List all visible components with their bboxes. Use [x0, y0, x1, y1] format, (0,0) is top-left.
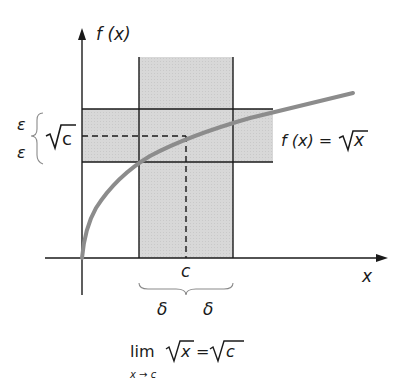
y-axis-arrow-icon: [78, 28, 86, 40]
x-axis-label: x: [361, 266, 373, 286]
epsilon-label-bottom: ε: [17, 143, 26, 162]
epsilon-delta-diagram: f (x) x c δ δ ε ε c f (x) = x lim x → c …: [0, 0, 394, 392]
limit-lim: lim: [130, 342, 154, 361]
y-axis-label: f (x): [96, 24, 131, 44]
function-radicand: x: [353, 130, 365, 150]
delta-label-right: δ: [203, 299, 213, 319]
c-label: c: [181, 261, 191, 281]
delta-label-left: δ: [157, 299, 167, 319]
limit-lhs-radicand: x: [180, 342, 191, 361]
limit-subscript: x → c: [129, 369, 157, 380]
delta-brace-icon: [139, 283, 233, 295]
sqrt-c-label: c: [62, 128, 72, 149]
epsilon-label-top: ε: [17, 115, 26, 134]
function-label: f (x) =: [281, 131, 332, 150]
limit-rhs-radicand: c: [226, 342, 235, 361]
epsilon-brace-icon: [31, 113, 43, 164]
x-axis-arrow-icon: [376, 254, 388, 262]
limit-equals: =: [196, 342, 209, 361]
